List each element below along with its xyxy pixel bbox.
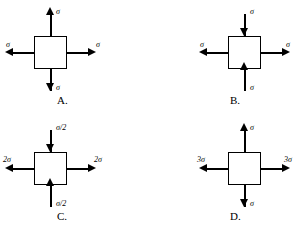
choice-letter-b: B. [230, 95, 240, 106]
stress-label-left: 3σ [197, 156, 205, 164]
arrow-head-bottom-down-icon [46, 83, 54, 91]
arrow-head-left-icon [5, 48, 13, 56]
stress-element-diagram-a: σ σ σ σ [0, 0, 148, 100]
arrow-shaft-top [244, 130, 246, 152]
stress-label-left: σ [6, 41, 10, 49]
choice-letter-c: C. [57, 211, 67, 222]
stress-label-top: σ/2 [56, 124, 66, 132]
arrow-shaft-left [12, 52, 34, 54]
arrow-head-right-icon [88, 48, 96, 56]
stress-label-right: 2σ [94, 156, 102, 164]
arrow-head-bottom-up-icon [46, 178, 54, 186]
answer-choice-a[interactable]: σ σ σ σ A. [0, 0, 148, 118]
arrow-shaft-top [50, 14, 52, 36]
arrow-head-top-up-icon [46, 7, 54, 15]
arrow-shaft-right [67, 52, 89, 54]
arrow-head-right-icon [282, 164, 290, 172]
arrow-shaft-right [261, 168, 283, 170]
stress-label-right: σ [96, 41, 100, 49]
arrow-shaft-bottom [244, 69, 246, 91]
stress-label-bottom: σ/2 [56, 200, 66, 208]
stress-label-top: σ [250, 124, 254, 132]
arrow-shaft-left [206, 52, 228, 54]
arrow-head-top-down-icon [46, 144, 54, 152]
arrow-shaft-right [261, 52, 283, 54]
element-square [34, 36, 67, 69]
stress-element-diagram-d: σ σ 3σ 3σ [148, 118, 296, 218]
choice-letter-d: D. [230, 211, 241, 222]
arrow-head-left-icon [5, 164, 13, 172]
arrow-head-top-down-icon [240, 28, 248, 36]
answer-choice-c[interactable]: σ/2 σ/2 2σ 2σ C. [0, 118, 148, 236]
stress-label-bottom: σ [250, 84, 254, 92]
answer-choice-d[interactable]: σ σ 3σ 3σ D. [148, 118, 296, 236]
stress-label-top: σ [250, 8, 254, 16]
arrow-head-bottom-up-icon [240, 62, 248, 70]
stress-label-left: σ [200, 41, 204, 49]
stress-label-left: 2σ [3, 156, 11, 164]
arrow-head-right-icon [88, 164, 96, 172]
stress-label-bottom: σ [56, 84, 60, 92]
element-square [228, 152, 261, 185]
arrow-head-bottom-down-icon [240, 199, 248, 207]
stress-label-top: σ [56, 8, 60, 16]
arrow-head-left-icon [199, 48, 207, 56]
stress-label-right: 3σ [284, 156, 292, 164]
arrow-shaft-left [12, 168, 34, 170]
stress-element-diagram-b: σ σ σ σ [148, 0, 296, 100]
choice-letter-a: A. [57, 95, 68, 106]
arrow-shaft-bottom [50, 185, 52, 207]
arrow-shaft-right [67, 168, 89, 170]
stress-label-bottom: σ [250, 200, 254, 208]
stress-element-diagram-c: σ/2 σ/2 2σ 2σ [0, 118, 148, 218]
arrow-shaft-left [206, 168, 228, 170]
arrow-head-right-icon [282, 48, 290, 56]
answer-choice-b[interactable]: σ σ σ σ B. [148, 0, 296, 118]
arrow-head-top-up-icon [240, 123, 248, 131]
arrow-head-left-icon [199, 164, 207, 172]
stress-element-figure: σ σ σ σ A. σ σ [0, 0, 296, 236]
stress-label-right: σ [286, 41, 290, 49]
